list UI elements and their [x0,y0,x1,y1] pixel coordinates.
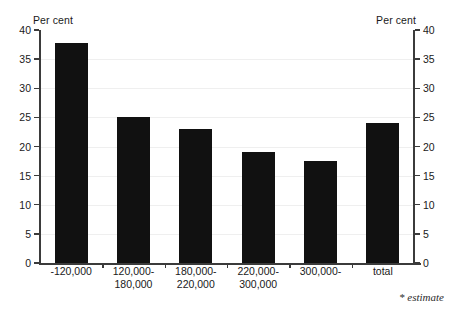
y-axis-tick-left [34,204,39,205]
y-axis-tick-label-left: 10 [19,200,31,211]
bar [366,123,399,263]
scan-artifact [0,0,452,9]
x-axis-category-label: total [373,265,393,278]
bar [117,117,150,263]
y-axis-tick-right [415,29,420,30]
gridline [40,234,414,235]
y-axis-tick-label-left: 5 [25,229,31,240]
gridline [40,147,414,148]
x-axis-category-label: 120,000- 180,000 [113,265,154,290]
y-axis-tick-right [415,175,420,176]
plot-area: 0510152025303540 0510152025303540 [40,30,414,263]
y-axis-tick-label-left: 25 [19,112,31,123]
y-axis-tick-right [415,58,420,59]
y-axis-tick-label-left: 30 [19,83,31,94]
y-axis-left-spine [39,30,41,263]
gridline [40,117,414,118]
y-axis-tick-label-right: 0 [423,258,429,269]
y-axis-tick-right [415,262,420,263]
y-axis-tick-right [415,117,420,118]
gridline [40,205,414,206]
y-axis-tick-left [34,262,39,263]
bar [242,152,275,263]
y-axis-tick-left [34,88,39,89]
y-axis-tick-left [34,58,39,59]
y-axis-tick-right [415,204,420,205]
bar [55,43,88,263]
y-axis-tick-right [415,146,420,147]
gridline [40,88,414,89]
gridline [40,59,414,60]
bar [179,129,212,263]
y-axis-tick-label-right: 10 [423,200,435,211]
left-axis-unit-label: Per cent [33,14,73,26]
right-axis-unit-label: Per cent [376,14,416,26]
y-axis-tick-left [34,233,39,234]
y-axis-tick-label-left: 0 [25,258,31,269]
y-axis-tick-label-right: 15 [423,170,435,181]
bar [304,161,337,263]
y-axis-tick-left [34,117,39,118]
footnote: * estimate [399,291,444,303]
y-axis-tick-label-right: 35 [423,54,435,65]
x-axis-category-label: 300,000- [300,265,341,278]
y-axis-tick-label-right: 5 [423,229,429,240]
y-axis-tick-label-right: 40 [423,25,435,36]
y-axis-tick-label-right: 20 [423,141,435,152]
y-axis-tick-label-right: 25 [423,112,435,123]
y-axis-tick-label-left: 15 [19,170,31,181]
y-axis-tick-label-left: 20 [19,141,31,152]
x-axis-category-label: 180,000- 220,000 [175,265,216,290]
y-axis-tick-left [34,146,39,147]
y-axis-tick-left [34,175,39,176]
bar-chart: Per cent Per cent 0510152025303540 05101… [0,0,452,309]
y-axis-tick-left [34,29,39,30]
x-axis-category-labels: -120,000120,000- 180,000180,000- 220,000… [40,265,414,299]
x-axis-category-label: -120,000 [50,265,91,278]
gridline [40,176,414,177]
y-axis-tick-right [415,233,420,234]
y-axis-tick-right [415,88,420,89]
y-axis-tick-label-right: 30 [423,83,435,94]
y-axis-tick-label-left: 40 [19,25,31,36]
y-axis-tick-label-left: 35 [19,54,31,65]
x-axis-category-label: 220,000- 300,000 [237,265,278,290]
